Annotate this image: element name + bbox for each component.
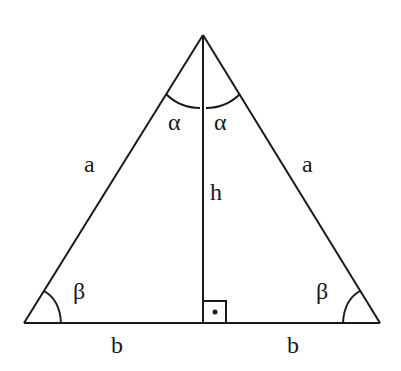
- label-base-left: b: [111, 333, 123, 357]
- label-angle-base-left: β: [73, 279, 85, 303]
- label-angle-base-right: β: [316, 279, 328, 303]
- side-left-line: [24, 35, 203, 323]
- side-right-line: [203, 35, 380, 323]
- label-angle-apex-left: α: [168, 110, 181, 134]
- label-base-right: b: [287, 333, 299, 357]
- base-left-angle-arc: [44, 291, 61, 323]
- label-height: h: [210, 180, 222, 204]
- right-angle-dot: [213, 310, 218, 315]
- label-angle-apex-right: α: [214, 110, 227, 134]
- triangle-diagram: [0, 0, 401, 371]
- label-side-right: a: [302, 152, 313, 176]
- base-right-angle-arc: [343, 291, 360, 323]
- apex-angle-arc-left: [166, 94, 200, 108]
- apex-angle-arc-right: [206, 94, 240, 108]
- label-side-left: a: [84, 152, 95, 176]
